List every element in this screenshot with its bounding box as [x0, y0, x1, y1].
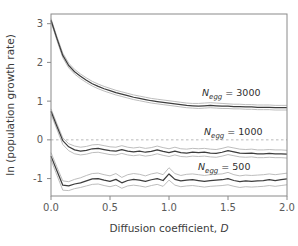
x-tick-label: 0.0 — [43, 202, 59, 213]
annotation-value: = 500 — [218, 161, 250, 172]
y-tick-label: 2 — [37, 57, 43, 68]
y-tick-label: 3 — [37, 18, 43, 29]
x-tick-label: 0.5 — [102, 202, 118, 213]
annotation-variable: N — [204, 126, 211, 137]
annotation-value: = 1000 — [224, 126, 262, 137]
y-axis-title: ln (population growth rate) — [4, 34, 16, 176]
figure-container: 0.00.51.01.52.0 3210-1 Negg = 3000Negg =… — [0, 0, 298, 246]
x-axis-title: Diffusion coefficient, D — [109, 222, 228, 234]
chart-canvas: 0.00.51.01.52.0 3210-1 Negg = 3000Negg =… — [0, 0, 298, 246]
y-tick-label: 0 — [37, 134, 43, 145]
x-axis-title-symbol: D — [221, 222, 229, 234]
annotation-subscript: egg — [205, 167, 219, 175]
annotation-variable: N — [198, 161, 205, 172]
y-tick-label: 1 — [37, 96, 43, 107]
y-tick-label: -1 — [33, 173, 43, 184]
x-tick-label: 1.5 — [220, 202, 236, 213]
x-axis-title-text: Diffusion coefficient, — [109, 222, 220, 234]
x-tick-label: 1.0 — [161, 202, 177, 213]
annotation-subscript: egg — [209, 93, 223, 101]
x-tick-label: 2.0 — [279, 202, 295, 213]
annotation-subscript: egg — [211, 132, 225, 140]
annotation-value: = 3000 — [222, 87, 260, 98]
annotation-variable: N — [202, 87, 209, 98]
